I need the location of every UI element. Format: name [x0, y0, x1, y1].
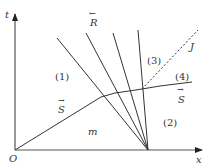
wave-diagram: t x O (1) (2) (3) (4) m ← R → S → S J [0, 0, 215, 165]
x-axis-label: x [196, 154, 202, 165]
shock-right-label: S [178, 94, 185, 105]
region-3-label: (3) [147, 55, 161, 66]
shock-right-arrow-icon: → [177, 85, 184, 94]
region-m-label: m [88, 126, 97, 137]
t-axis-label: t [5, 9, 10, 20]
origin-label: O [9, 153, 17, 164]
shock-curve [15, 82, 192, 150]
region-4-label: (4) [175, 71, 189, 82]
rarefaction-label: R [89, 17, 98, 28]
contact-label: J [188, 41, 195, 52]
region-1-label: (1) [55, 71, 69, 82]
shock-lower-label: S [58, 104, 65, 115]
fan-line-1 [57, 38, 148, 150]
region-2-label: (2) [163, 117, 177, 128]
